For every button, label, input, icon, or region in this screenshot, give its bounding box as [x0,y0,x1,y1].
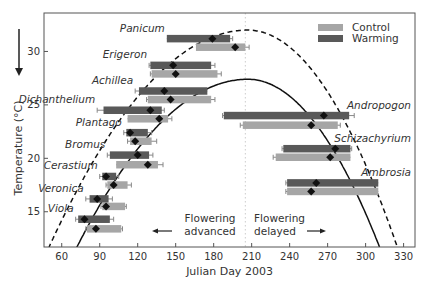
warming-range-bar [150,62,211,70]
species-label: Cerastium [44,159,98,171]
x-axis-title: Julian Day 2003 [185,265,273,278]
species-andropogon [223,112,355,130]
y-tick-label: 20 [27,153,40,164]
x-tick-label: 300 [356,251,375,262]
arrow-down-icon [15,68,23,76]
species-label: Panicum [120,22,165,34]
control-range-bar [276,153,351,161]
x-tick-label: 60 [55,251,68,262]
legend-swatch-warming [318,35,343,42]
legend-label-warming: Warming [352,32,399,44]
annotation-text: delayed [254,225,296,237]
species-label: Viola [48,202,74,214]
species-label: Bromus [65,138,106,150]
warming-range-bar [167,35,230,43]
x-tick-label: 90 [93,251,106,262]
species-viola [76,215,123,233]
species-veronica [86,195,127,210]
annotation-text: Flowering [185,212,236,224]
x-tick-label: 270 [318,251,337,262]
species-label: Plantago [76,116,122,128]
warming-range-bar [110,151,149,159]
x-tick-label: 210 [242,251,261,262]
species-ambrosia [286,179,378,196]
species-label: Ambrosia [360,166,411,178]
arrow-left-icon [152,229,158,234]
x-tick-label: 330 [394,251,413,262]
species-panicum [167,35,249,52]
x-tick-label: 150 [166,251,185,262]
annotation-text: Flowering [254,212,305,224]
y-tick-label: 25 [27,99,40,110]
control-range-bar [148,96,211,104]
warming-range-bar [283,145,350,153]
warming-range-bar [224,112,349,120]
control-range-bar [287,188,378,196]
annotation-text: advanced [184,225,235,237]
warming-range-bar [287,179,378,187]
phenology-chart: PanicumErigeronAchilleaDichantheliumPlan… [0,0,427,289]
species-plantago [124,129,157,146]
x-tick-label: 120 [128,251,147,262]
species-label: Schizachyrium [334,132,411,144]
species-schizachyrium [273,145,352,162]
x-tick-label: 240 [280,251,299,262]
control-range-bar [152,70,218,78]
annotations: FloweringadvancedFloweringdelayed [152,212,326,237]
warming-range-bar [139,87,207,95]
y-tick-label: 30 [27,46,40,57]
control-range-bar [243,121,338,128]
species-label: Erigeron [103,48,147,60]
species-label: Veronica [38,182,84,194]
legend-swatch-control [318,24,343,31]
y-tick-label: 15 [27,206,40,217]
legend: ControlWarming [318,21,399,44]
species-achillea [135,87,215,104]
species-bromus [107,151,163,169]
species-bars [76,35,379,233]
x-tick-label: 180 [204,251,223,262]
chart-canvas: PanicumErigeronAchilleaDichantheliumPlan… [0,0,427,289]
species-label: Achillea [91,74,133,86]
species-erigeron [149,61,221,78]
arrow-right-icon [320,229,326,234]
species-label: Andropogon [346,99,411,111]
y-axis-title: Temperature (°C) [12,101,25,197]
